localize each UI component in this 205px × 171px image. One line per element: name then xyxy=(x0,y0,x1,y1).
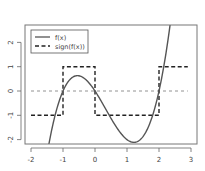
legend-label-fx: f(x) xyxy=(55,34,66,42)
x-tick-label: 1 xyxy=(125,156,129,164)
x-axis: -2-10123 xyxy=(28,148,194,164)
y-tick-label: -1 xyxy=(7,112,15,119)
plot-area xyxy=(31,1,188,155)
legend: f(x) sign(f(x)) xyxy=(31,30,88,53)
x-tick-label: 2 xyxy=(157,156,161,164)
legend-label-sign: sign(f(x)) xyxy=(55,43,85,51)
y-tick-label: -2 xyxy=(7,136,15,143)
x-tick-label: 3 xyxy=(189,156,193,164)
x-tick-label: -1 xyxy=(60,156,67,164)
x-tick-label: -2 xyxy=(28,156,35,164)
fx-curve xyxy=(47,1,173,155)
y-tick-label: 1 xyxy=(7,64,15,68)
y-tick-label: 0 xyxy=(7,89,15,93)
x-tick-label: 0 xyxy=(93,156,97,164)
y-axis: -2-1012 xyxy=(7,40,21,143)
y-tick-label: 2 xyxy=(7,40,15,44)
plot-svg: -2-10123 -2-1012 f(x) sign(f(x)) xyxy=(0,0,205,171)
chart-container: -2-10123 -2-1012 f(x) sign(f(x)) xyxy=(0,0,205,171)
